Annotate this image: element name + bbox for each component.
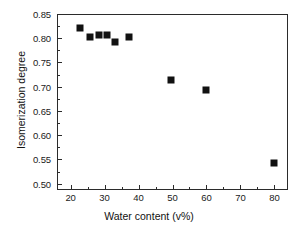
y-tick-mark xyxy=(57,135,62,136)
x-tick-label: 70 xyxy=(235,192,245,203)
data-point xyxy=(96,32,103,39)
scatter-chart-figure: 0.500.550.600.650.700.750.800.85 2030405… xyxy=(0,0,298,233)
data-point xyxy=(87,33,94,40)
y-tick-mark xyxy=(57,111,62,112)
y-tick-mark-minor xyxy=(57,123,60,124)
x-tick-label: 30 xyxy=(99,192,109,203)
x-tick-mark xyxy=(240,185,241,190)
y-tick-mark-minor xyxy=(57,26,60,27)
x-tick-mark xyxy=(274,185,275,190)
y-tick-label: 0.75 xyxy=(33,57,51,68)
y-tick-label: 0.60 xyxy=(33,130,51,141)
y-tick-mark xyxy=(57,184,62,185)
y-tick-mark xyxy=(57,62,62,63)
x-tick-label: 20 xyxy=(65,192,75,203)
y-axis-title: Isomerization degree xyxy=(15,12,27,188)
y-tick-mark-minor xyxy=(57,147,60,148)
y-tick-mark-minor xyxy=(57,99,60,100)
data-point xyxy=(112,39,119,46)
y-tick-label: 0.70 xyxy=(33,81,51,92)
y-tick-label: 0.55 xyxy=(33,154,51,165)
y-tick-mark xyxy=(57,159,62,160)
y-tick-mark xyxy=(57,87,62,88)
data-point xyxy=(76,24,83,31)
x-tick-mark xyxy=(139,185,140,190)
x-tick-mark-minor xyxy=(223,187,224,190)
x-tick-mark-minor xyxy=(122,187,123,190)
y-tick-label: 0.65 xyxy=(33,105,51,116)
plot-area xyxy=(57,14,288,190)
x-tick-label: 40 xyxy=(133,192,143,203)
y-tick-mark xyxy=(57,14,62,15)
data-point xyxy=(271,160,278,167)
x-tick-mark-minor xyxy=(189,187,190,190)
x-tick-mark-minor xyxy=(88,187,89,190)
x-tick-mark xyxy=(105,185,106,190)
x-tick-label: 60 xyxy=(201,192,211,203)
data-point xyxy=(168,76,175,83)
x-tick-mark-minor xyxy=(156,187,157,190)
y-tick-mark-minor xyxy=(57,50,60,51)
data-point xyxy=(126,33,133,40)
x-tick-mark xyxy=(71,185,72,190)
x-tick-label: 50 xyxy=(167,192,177,203)
y-tick-mark xyxy=(57,38,62,39)
data-point xyxy=(202,87,209,94)
x-axis-title: Water content (v%) xyxy=(0,210,298,222)
x-tick-mark xyxy=(206,185,207,190)
y-tick-label: 0.85 xyxy=(33,9,51,20)
x-tick-label: 80 xyxy=(269,192,279,203)
data-point xyxy=(103,32,110,39)
y-tick-mark-minor xyxy=(57,172,60,173)
y-tick-mark-minor xyxy=(57,75,60,76)
y-tick-label: 0.50 xyxy=(33,178,51,189)
x-tick-mark xyxy=(173,185,174,190)
y-tick-label: 0.80 xyxy=(33,33,51,44)
x-tick-mark-minor xyxy=(257,187,258,190)
